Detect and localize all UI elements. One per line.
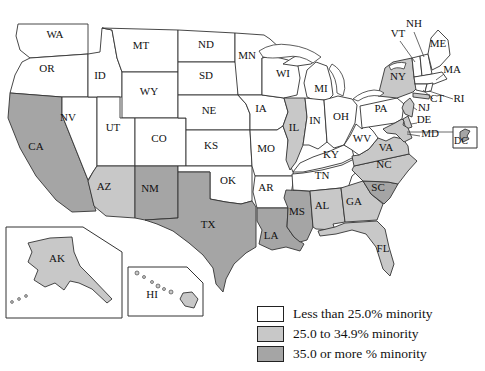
hawaii-island-2 [151,281,154,284]
state-label-ok: OK [220,174,236,186]
state-label-oh: OH [333,110,349,122]
state-label-hi: HI [146,288,158,300]
state-label-id: ID [94,69,106,81]
state-label-fl: FL [377,242,390,254]
state-label-nm: NM [141,182,159,194]
state-ks [186,130,252,166]
state-label-wa: WA [46,28,63,40]
state-label-co: CO [151,132,166,144]
state-label-ne: NE [202,104,217,116]
state-label-ga: GA [346,195,362,207]
state-label-va: VA [379,141,394,153]
hawaii-island-5 [169,290,173,294]
state-label-pa: PA [374,102,387,114]
state-label-mo: MO [257,142,275,154]
state-label-dc: DC [454,135,468,146]
state-label-la: LA [264,229,279,241]
state-label-mt: MT [133,39,150,51]
state-label-sd: SD [199,69,213,81]
legend-swatch-low [257,306,284,322]
aleutian-island-2 [25,295,28,298]
state-label-ca: CA [28,140,43,152]
state-label-sc: SC [371,181,384,193]
state-label-ut: UT [106,121,121,133]
great-lake-2 [353,90,384,101]
state-label-ct: CT [430,92,444,104]
state-nj [402,98,414,117]
state-label-tx: TX [201,218,216,230]
legend-row-mid: 25.0 to 34.9% minority [257,326,432,342]
state-label-az: AZ [97,180,112,192]
state-label-ar: AR [258,181,274,193]
hawaii-inset-box [128,267,203,316]
legend-label-mid: 25.0 to 34.9% minority [293,326,419,342]
state-label-in: IN [309,114,321,126]
aleutian-island-0 [11,301,14,304]
state-label-ky: KY [323,148,339,160]
minority-choropleth-map: WAORCANVIDMTWYUTCOAZNMNDSDNEKSOKTXMNIAMO… [0,0,485,371]
state-label-wy: WY [140,85,158,97]
pointer-line-nh [414,32,424,57]
state-label-nd: ND [198,38,214,50]
state-hi [180,292,198,308]
state-label-il: IL [289,121,300,133]
hawaii-island-0 [135,271,139,275]
state-label-ia: IA [255,102,267,114]
state-label-ma: MA [443,63,461,75]
state-label-me: ME [430,37,447,49]
hawaii-island-1 [143,276,146,279]
state-label-md: MD [421,127,439,139]
state-label-mi: MI [314,82,328,94]
state-label-ms: MS [289,205,305,217]
state-label-or: OR [39,62,55,74]
legend: Less than 25.0% minority 25.0 to 34.9% m… [257,306,432,366]
state-label-nv: NV [60,111,76,123]
hawaii-island-4 [163,288,166,291]
state-label-ks: KS [204,139,218,151]
state-label-ak: AK [49,252,65,264]
state-label-tn: TN [315,169,330,181]
legend-label-high: 35.0 or more % minority [293,346,427,362]
state-or [10,54,88,97]
legend-label-low: Less than 25.0% minority [293,306,432,322]
state-label-ny: NY [390,70,406,82]
state-ak [28,237,112,303]
legend-swatch-high [257,346,284,362]
legend-row-low: Less than 25.0% minority [257,306,432,322]
legend-swatch-mid [257,326,284,342]
state-label-nh: NH [406,17,422,29]
aleutian-island-1 [18,298,21,301]
state-label-mn: MN [238,49,256,61]
state-label-wi: WI [276,67,290,79]
state-label-ri: RI [454,92,465,104]
state-label-de: DE [417,113,432,125]
state-label-wv: WV [353,132,371,144]
legend-row-high: 35.0 or more % minority [257,346,432,362]
state-label-nc: NC [376,158,391,170]
state-label-nj: NJ [418,101,431,113]
state-label-al: AL [315,199,330,211]
state-label-vt: VT [391,27,406,39]
